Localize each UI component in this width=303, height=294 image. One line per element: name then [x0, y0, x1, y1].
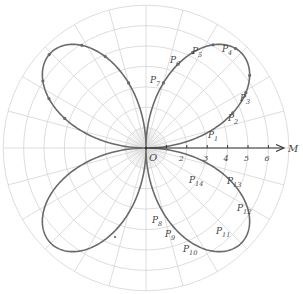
point-label-p11: P11 [215, 226, 230, 239]
curve-point-p5 [211, 43, 214, 46]
point-label-p1: P1 [207, 130, 218, 143]
point-label-p10: P10 [182, 244, 197, 257]
grid-radial [45, 150, 144, 249]
point-label-p13: P13 [226, 176, 241, 189]
axis-label-m: M [287, 143, 299, 154]
curve-point-p10 [80, 44, 83, 47]
axis-tick-label: 2 [178, 154, 184, 163]
grid-radial [45, 47, 144, 146]
grid-radial [109, 10, 145, 145]
polar-plot: M23456O P1P2P3P4P5P6P7P8P9P10P11P12P13P1… [0, 0, 303, 294]
grid-radial [148, 150, 247, 249]
curve-point-p9 [104, 55, 107, 58]
polar-rose-diagram: M23456O P1P2P3P4P5P6P7P8P9P10P11P12P13P1… [0, 0, 303, 294]
curve-point-p7 [162, 81, 165, 84]
curve-point-p13 [47, 97, 50, 100]
point-label-p8: P8 [151, 215, 162, 228]
axis-tick-label: 6 [264, 154, 269, 163]
point-labels: P1P2P3P4P5P6P7P8P9P10P11P12P13P14 [149, 44, 251, 257]
point-label-p9: P9 [164, 229, 175, 242]
stray-dot [114, 236, 116, 238]
grid-radial [8, 111, 143, 147]
axis-tick-label: 5 [244, 154, 249, 163]
grid-radial [8, 149, 143, 185]
curve-point-p8 [127, 81, 130, 84]
origin-point [145, 147, 148, 150]
curve-point-p11 [48, 53, 51, 56]
point-label-p6: P6 [169, 55, 180, 68]
axis-tick-label: 3 [203, 154, 208, 163]
point-label-p12: P12 [236, 203, 251, 216]
point-label-p7: P7 [149, 75, 161, 88]
grid-radial [109, 151, 145, 286]
curve-point-p14 [63, 117, 66, 120]
grid-radial [148, 47, 247, 146]
curve-point-p3 [248, 74, 251, 77]
axis-tick-label: 4 [223, 154, 229, 163]
curve-point-p12 [41, 79, 44, 82]
curve-point-p4 [234, 47, 237, 50]
origin-label: O [149, 152, 157, 163]
point-label-p2: P2 [227, 113, 238, 126]
